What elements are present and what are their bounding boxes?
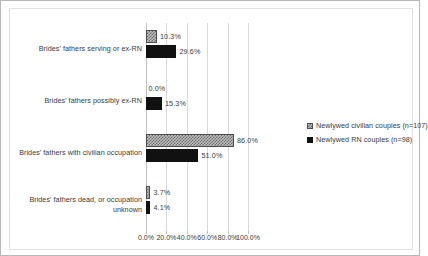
value-axis: 0.0% 20.0% 40.0% 60.0% 80.0% 100.0%: [146, 231, 248, 247]
chart-canvas: 10.3% 29.6% 0.0% 15.3% 86.0% 51.0%: [9, 8, 413, 250]
xtick-label-0: 0.0%: [138, 234, 154, 241]
bar-group-2: 86.0% 51.0%: [146, 127, 248, 179]
bar-label-civilian-1: 0.0%: [149, 82, 166, 95]
bar-label-rn-2: 51.0%: [202, 149, 223, 162]
category-label-3: Brides' fathers dead, or occupation unkn…: [10, 195, 142, 214]
bar-civilian-0[interactable]: [146, 30, 157, 43]
legend-item-civilian[interactable]: Newlywed civilian couples (n=107): [307, 121, 428, 130]
category-axis: Brides' fathers serving or ex-RN Brides'…: [10, 23, 142, 231]
plot-area: 10.3% 29.6% 0.0% 15.3% 86.0% 51.0%: [146, 23, 248, 231]
category-label-1: Brides' fathers possibly ex-RN: [10, 96, 142, 106]
xtick-label-20: 20.0%: [156, 234, 176, 241]
bar-rn-0[interactable]: [146, 45, 176, 58]
legend-item-rn[interactable]: Newlywed RN couples (n=98): [307, 135, 428, 144]
xtick-label-100: 100.0%: [236, 234, 260, 241]
bar-label-civilian-0: 10.3%: [160, 30, 181, 43]
bar-rn-3[interactable]: [146, 201, 150, 214]
bar-label-rn-0: 29.6%: [180, 45, 201, 58]
gridline-100: [248, 23, 249, 231]
category-label-0: Brides' fathers serving or ex-RN: [10, 44, 142, 54]
bar-rn-2[interactable]: [146, 149, 198, 162]
legend-swatch-rn-icon: [307, 137, 313, 143]
xtick-label-40: 40.0%: [177, 234, 197, 241]
legend-label-rn: Newlywed RN couples (n=98): [316, 135, 412, 144]
bar-label-civilian-3: 3.7%: [154, 186, 171, 199]
legend-label-civilian: Newlywed civilian couples (n=107): [316, 121, 428, 130]
bar-label-rn-1: 15.3%: [165, 97, 186, 110]
bar-label-civilian-2: 86.0%: [237, 134, 258, 147]
bar-group-0: 10.3% 29.6%: [146, 23, 248, 75]
bar-label-rn-3: 4.1%: [154, 201, 171, 214]
bar-civilian-3[interactable]: [146, 186, 150, 199]
bar-rn-1[interactable]: [146, 97, 162, 110]
bar-civilian-2[interactable]: [146, 134, 234, 147]
legend-swatch-civilian-icon: [307, 123, 313, 129]
category-label-2: Brides' fathers with civilian occupation: [10, 148, 142, 158]
bar-group-3: 3.7% 4.1%: [146, 179, 248, 231]
xtick-label-80: 80.0%: [218, 234, 238, 241]
chart-legend: Newlywed civilian couples (n=107) Newlyw…: [307, 121, 428, 149]
xtick-label-60: 60.0%: [197, 234, 217, 241]
bar-group-1: 0.0% 15.3%: [146, 75, 248, 127]
